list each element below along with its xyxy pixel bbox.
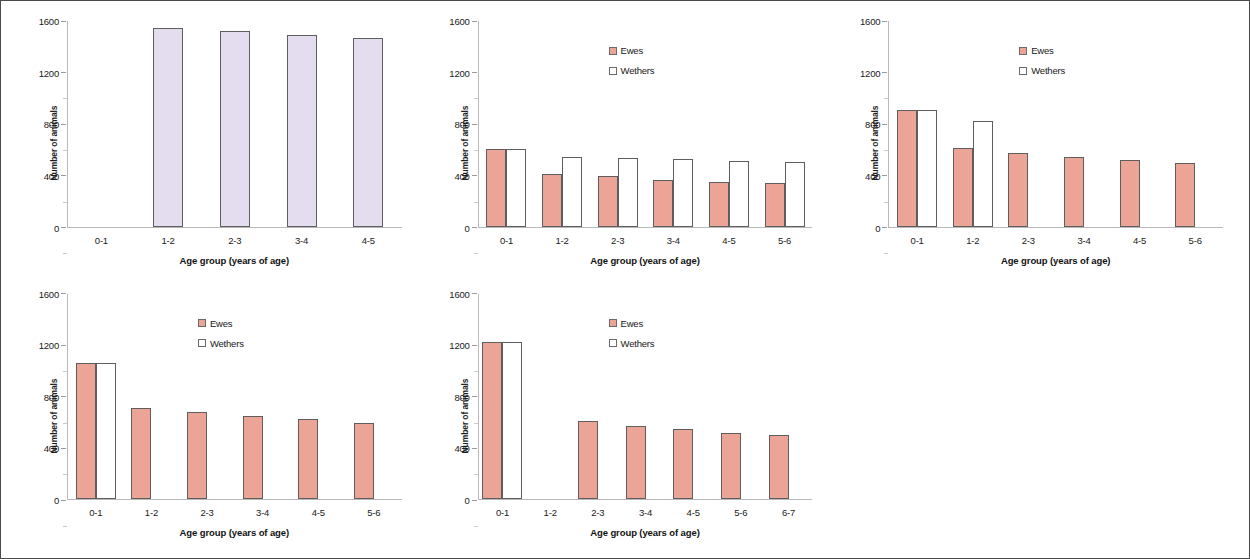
- x-axis-tick-label: 6-7: [765, 507, 813, 518]
- bar-wethers: [729, 161, 749, 227]
- x-axis-tick-label: 1-2: [124, 507, 180, 518]
- y-axis-minor-tick: [63, 202, 67, 203]
- y-axis-tick-label: 800: [434, 119, 470, 130]
- x-axis-tick-label: 4-5: [1112, 235, 1168, 246]
- x-axis-tick-label: 5-6: [757, 235, 813, 246]
- y-axis-minor-tick: [474, 423, 478, 424]
- bar-group: [945, 21, 1001, 227]
- y-axis-tick-mark: [472, 293, 477, 294]
- bar-group: [526, 294, 574, 500]
- y-axis-tick-mark: [472, 227, 477, 228]
- x-axis-tick-label: 0-1: [479, 507, 527, 518]
- bar-ewes: [542, 174, 562, 227]
- legend-item-ewes: Ewes: [1019, 45, 1065, 56]
- x-axis-tick-label: 3-4: [645, 235, 701, 246]
- legend-item-ewes: Ewes: [609, 45, 655, 56]
- legend-label: Ewes: [621, 45, 643, 56]
- y-axis-minor-tick: [474, 98, 478, 99]
- x-axis-tick-label: 2-3: [201, 235, 268, 246]
- bar-ewes: [626, 426, 646, 499]
- y-axis-tick-label: 800: [434, 391, 470, 402]
- x-axis-tick-label: 4-5: [335, 235, 402, 246]
- y-axis-tick-mark: [61, 293, 66, 294]
- y-axis-tick-label: 800: [844, 119, 880, 130]
- bar-ewes: [486, 149, 506, 227]
- y-axis-tick-mark: [61, 21, 66, 22]
- bar-group: [757, 21, 813, 227]
- bar-group: [701, 21, 757, 227]
- y-axis-tick-label: 400: [23, 170, 59, 181]
- y-axis-tick-label: 0: [434, 222, 470, 233]
- y-axis-tick-mark: [472, 72, 477, 73]
- legend-swatch-wethers-icon: [1019, 67, 1027, 75]
- bar-group: [669, 294, 717, 500]
- bar-ewes: [769, 435, 789, 499]
- x-axis-tick-label: 2-3: [179, 507, 235, 518]
- x-axis-line: [67, 499, 402, 500]
- y-axis-tick-label: 400: [434, 170, 470, 181]
- x-axis-tick-label: 0-1: [479, 235, 535, 246]
- bar-ewes: [482, 342, 502, 499]
- legend-swatch-wethers-icon: [609, 67, 617, 75]
- x-axis-title: Age group (years of age): [67, 255, 402, 266]
- legend-item-ewes: Ewes: [609, 318, 655, 329]
- x-axis-tick-label: 3-4: [268, 235, 335, 246]
- y-axis-tick-mark: [61, 227, 66, 228]
- bar-ewes: [765, 183, 785, 226]
- y-axis-minor-tick: [884, 98, 888, 99]
- y-axis-tick-mark: [882, 175, 887, 176]
- bar-group: [124, 294, 180, 500]
- y-axis-tick-mark: [472, 500, 477, 501]
- y-axis-tick-label: 1600: [434, 288, 470, 299]
- bar-ewes: [354, 423, 374, 499]
- bar-wethers: [618, 158, 638, 227]
- bar-ewes: [721, 433, 741, 499]
- x-axis-tick-labels: 0-11-22-33-44-55-6: [479, 235, 813, 246]
- x-axis-tick-label: 5-6: [717, 507, 765, 518]
- x-axis-line: [888, 227, 1223, 228]
- bar-wethers: [785, 162, 805, 227]
- x-axis-tick-label: 0-1: [68, 235, 135, 246]
- x-axis-tick-labels: 0-11-22-33-44-55-6: [889, 235, 1223, 246]
- bar-ewes: [953, 148, 973, 226]
- y-axis-tick-label: 400: [434, 443, 470, 454]
- y-axis-tick-mark: [882, 21, 887, 22]
- x-axis-title: Age group (years of age): [478, 255, 813, 266]
- y-axis-tick-label: 1600: [434, 16, 470, 27]
- x-axis-tick-label: 4-5: [701, 235, 757, 246]
- bar-group: [335, 21, 402, 227]
- y-axis-tick-mark: [882, 124, 887, 125]
- legend-item-wethers: Wethers: [198, 338, 244, 349]
- bar-ewes: [187, 412, 207, 499]
- bar-group: [889, 21, 945, 227]
- x-axis-tick-label: 2-3: [1001, 235, 1057, 246]
- x-axis-line: [67, 227, 402, 228]
- bar-group: [346, 294, 402, 500]
- bar-group: [479, 294, 527, 500]
- x-axis-tick-label: 4-5: [290, 507, 346, 518]
- y-axis-tick-mark: [61, 448, 66, 449]
- bar-group: [135, 21, 202, 227]
- legend-swatch-wethers-icon: [609, 339, 617, 347]
- bar-ewes: [298, 419, 318, 499]
- y-axis-minor-tick: [63, 423, 67, 424]
- bar-wethers: [562, 157, 582, 226]
- x-axis-tick-labels: 0-11-22-33-44-5: [68, 235, 402, 246]
- legend-label: Ewes: [621, 318, 643, 329]
- x-axis-tick-label: 2-3: [574, 507, 622, 518]
- bar-group: [201, 21, 268, 227]
- bar-group: [290, 294, 346, 500]
- bar-group: [479, 21, 535, 227]
- legend-item-wethers: Wethers: [609, 65, 655, 76]
- bar-ewes: [653, 180, 673, 227]
- x-axis-tick-labels: 0-11-22-33-44-55-6: [68, 507, 402, 518]
- bar-group: [1112, 21, 1168, 227]
- x-axis-tick-label: 1-2: [945, 235, 1001, 246]
- bar-wethers: [673, 159, 693, 226]
- y-axis-tick-mark: [472, 21, 477, 22]
- bar-ewes: [131, 408, 151, 499]
- y-axis-tick-label: 1200: [844, 67, 880, 78]
- chart-legend: EwesWethers: [1019, 45, 1065, 76]
- y-axis-tick-mark: [61, 72, 66, 73]
- legend-swatch-ewes-icon: [198, 319, 206, 327]
